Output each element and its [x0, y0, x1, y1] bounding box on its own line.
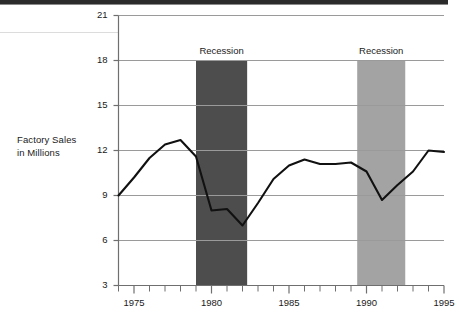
x-tick-label-1975: 1975 — [114, 297, 154, 308]
y-tick-label-3: 3 — [88, 279, 108, 290]
x-tick-label-1980: 1980 — [192, 297, 232, 308]
y-tick-label-6: 6 — [88, 234, 108, 245]
x-tick-label-1990: 1990 — [347, 297, 387, 308]
y-tick-label-18: 18 — [88, 54, 108, 65]
y-tick-label-21: 21 — [88, 9, 108, 20]
recession-band-1-label: Recession — [182, 45, 262, 56]
x-tick-label-1985: 1985 — [269, 297, 309, 308]
recession-band-2-label: Recession — [341, 45, 421, 56]
y-tick-label-9: 9 — [88, 189, 108, 200]
recession-band-2 — [357, 61, 405, 286]
x-tick-label-1995: 1995 — [424, 297, 459, 308]
y-tick-label-15: 15 — [88, 99, 108, 110]
y-tick-label-12: 12 — [88, 144, 108, 155]
recession-band-1 — [196, 61, 247, 286]
